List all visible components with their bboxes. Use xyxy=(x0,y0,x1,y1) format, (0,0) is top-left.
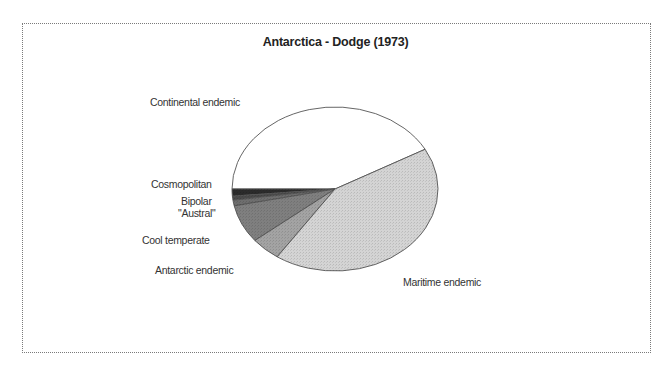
pie-chart xyxy=(0,0,671,371)
label-bipolar: Bipolar xyxy=(181,195,212,207)
label-austral: "Austral" xyxy=(178,207,215,219)
label-maritime-endemic: Maritime endemic xyxy=(403,276,481,288)
label-cool-temperate: Cool temperate xyxy=(142,234,210,246)
label-continental-endemic: Continental endemic xyxy=(150,96,240,108)
label-cosmopolitan: Cosmopolitan xyxy=(151,178,212,190)
label-antarctic-endemic: Antarctic endemic xyxy=(155,264,233,276)
